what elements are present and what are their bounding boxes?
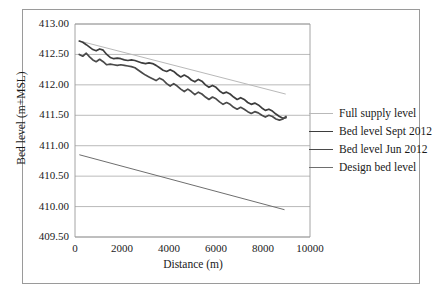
legend-swatch-bed-level-sept-2012 [308, 126, 334, 137]
y-tick-label: 409.50 [13, 230, 69, 242]
legend-swatch-design-bed-level [308, 162, 334, 173]
y-tick-label: 411.00 [13, 139, 69, 151]
legend-item-full-supply-level: Full supply level [308, 104, 436, 122]
chart-legend: Full supply level Bed level Sept 2012 Be… [308, 104, 436, 176]
legend-item-design-bed-level: Design bed level [308, 158, 436, 176]
series-line-bed-level-sept-2012 [79, 41, 286, 118]
legend-label-full-supply-level: Full supply level [339, 107, 416, 120]
legend-label-bed-level-sept-2012: Bed level Sept 2012 [339, 125, 432, 138]
y-tick-label: 410.50 [13, 169, 69, 181]
chart-figure: Bed level (m+MSL) Distance (m) Full supp… [0, 0, 442, 294]
x-tick-label: 10000 [280, 242, 340, 254]
y-tick-label: 412.50 [13, 47, 69, 59]
legend-label-design-bed-level: Design bed level [339, 161, 416, 174]
legend-swatch-full-supply-level [308, 108, 334, 119]
legend-item-bed-level-jun-2012: Bed level Jun 2012 [308, 140, 436, 158]
legend-label-bed-level-jun-2012: Bed level Jun 2012 [339, 143, 427, 156]
legend-swatch-bed-level-jun-2012 [308, 144, 334, 155]
x-axis-title: Distance (m) [118, 258, 268, 270]
y-tick-label: 412.00 [13, 78, 69, 90]
y-tick-label: 413.00 [13, 17, 69, 29]
y-tick-label: 411.50 [13, 108, 69, 120]
series-line-full-supply-level [80, 41, 286, 94]
legend-item-bed-level-sept-2012: Bed level Sept 2012 [308, 122, 436, 140]
y-tick-label: 410.00 [13, 200, 69, 212]
series-line-design-bed-level [80, 155, 284, 210]
